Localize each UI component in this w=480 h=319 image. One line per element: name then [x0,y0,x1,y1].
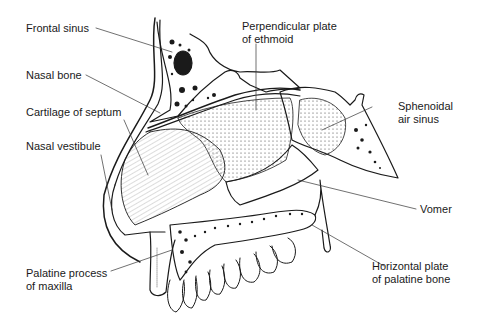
frontal-sinus-cavity [174,51,192,75]
label-palatine-process-line2: of maxilla [26,280,72,292]
label-sphenoidal-line2: air sinus [398,113,439,125]
label-perpendicular-plate-line2: of ethmoid [242,33,293,45]
label-palatine-process-line1: Palatine process [26,267,107,279]
label-perpendicular-plate-line1: Perpendicular plate [242,20,337,32]
teeth [168,238,296,312]
label-cartilage-of-septum: Cartilage of septum [26,106,121,118]
palatine-process [170,210,316,280]
label-frontal-sinus: Frontal sinus [26,22,89,34]
sphenoidal-sinus [298,98,346,155]
label-nasal-vestibule: Nasal vestibule [26,140,101,152]
label-sphenoidal-line1: Sphenoidal [398,100,453,112]
label-horizontal-plate-line2: of palatine bone [372,273,450,285]
label-vomer: Vomer [420,203,452,215]
label-nasal-bone: Nasal bone [26,69,82,81]
label-horizontal-plate-line1: Horizontal plate [372,260,448,272]
septal-cartilage [121,129,225,225]
